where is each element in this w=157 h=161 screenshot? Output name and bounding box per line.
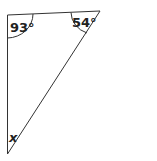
angle-label-top-left: 93°: [10, 20, 35, 35]
angle-label-bottom: x: [8, 130, 18, 145]
triangle-diagram: 93° 54° x: [0, 0, 157, 161]
angle-label-top-right: 54°: [72, 15, 97, 30]
